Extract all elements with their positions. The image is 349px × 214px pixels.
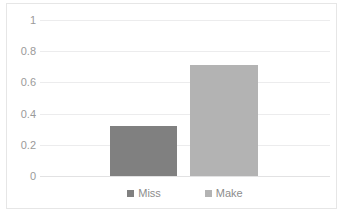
legend-label: Miss xyxy=(138,187,161,199)
y-axis-tick-label: 1 xyxy=(30,15,36,26)
bar-miss[interactable] xyxy=(110,126,177,176)
y-axis-tick-label: 0.4 xyxy=(21,108,36,119)
legend-label: Make xyxy=(216,187,243,199)
legend-item-miss[interactable]: Miss xyxy=(127,187,161,199)
bar-make[interactable] xyxy=(190,65,258,176)
bars-layer xyxy=(40,20,330,176)
y-axis-tick-label: 0.2 xyxy=(21,139,36,150)
legend-item-make[interactable]: Make xyxy=(205,187,243,199)
axis-baseline xyxy=(40,176,330,177)
bar-chart: 1 0.8 0.6 0.4 0.2 0 Miss Make xyxy=(0,0,349,214)
y-axis-tick-labels: 1 0.8 0.6 0.4 0.2 0 xyxy=(8,20,36,176)
y-axis-tick-label: 0 xyxy=(30,171,36,182)
y-axis-tick-label: 0.8 xyxy=(21,46,36,57)
legend-swatch-icon xyxy=(205,190,212,197)
chart-legend: Miss Make xyxy=(40,184,330,202)
plot-area xyxy=(40,20,330,176)
chart-title xyxy=(80,0,270,4)
legend-swatch-icon xyxy=(127,190,134,197)
y-axis-tick-label: 0.6 xyxy=(21,77,36,88)
